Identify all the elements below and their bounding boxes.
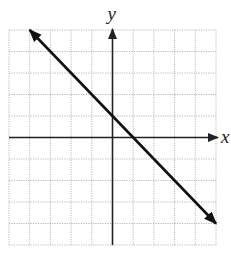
y-axis-label: y [106,3,117,24]
series-line [30,30,216,224]
coordinate-plane: x y [0,0,231,260]
x-axis-label: x [220,126,230,147]
plot-line [30,30,216,224]
axes [9,29,218,245]
